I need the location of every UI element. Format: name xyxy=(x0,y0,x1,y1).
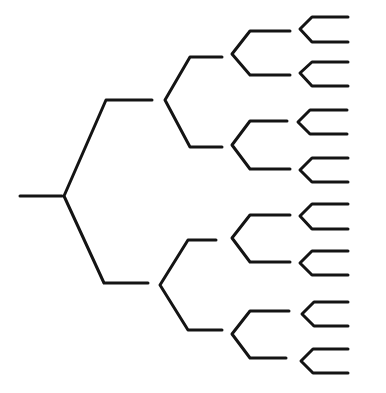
branch-level-4-12 xyxy=(300,251,348,275)
branch-level-4-9 xyxy=(298,110,347,134)
branch-level-2-1 xyxy=(165,57,222,147)
branch-level-2-2 xyxy=(160,240,222,330)
branch-level-4-13 xyxy=(302,302,348,326)
binary-tree-diagram xyxy=(0,0,386,393)
branch-level-4-10 xyxy=(300,158,348,182)
branch-level-4-14 xyxy=(301,349,348,373)
branch-level-3-6 xyxy=(232,311,289,358)
branch-level-4-11 xyxy=(300,204,348,229)
branch-level-4-8 xyxy=(300,62,348,86)
branch-level-3-3 xyxy=(232,31,290,75)
branch-level-4-7 xyxy=(300,17,348,42)
tree-branches xyxy=(20,17,348,373)
branch-level-1-0 xyxy=(64,100,152,283)
branch-level-3-5 xyxy=(232,215,290,262)
branch-level-3-4 xyxy=(232,121,290,169)
